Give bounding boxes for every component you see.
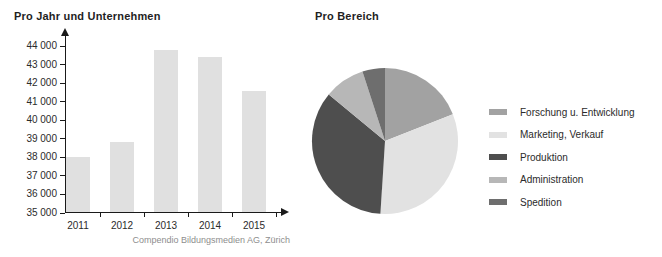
legend-swatch-icon [489, 177, 507, 183]
y-tick-mark [60, 157, 65, 158]
y-axis-line [65, 36, 66, 213]
x-tick-label: 2013 [144, 220, 188, 231]
y-tick-label: 38 000 [12, 151, 57, 162]
legend-label: Administration [520, 174, 583, 185]
legend-swatch-icon [489, 109, 507, 115]
legend-item: Marketing, Verkauf [489, 124, 635, 147]
x-tick-label: 2014 [188, 220, 232, 231]
y-tick-label: 37 000 [12, 170, 57, 181]
x-tick-label: 2011 [56, 220, 100, 231]
bar-2013 [154, 50, 178, 213]
y-tick-mark [60, 101, 65, 102]
y-tick-mark [60, 120, 65, 121]
legend-swatch-icon [489, 154, 507, 160]
legend-item: Forschung u. Entwicklung [489, 101, 635, 124]
y-tick-mark [60, 175, 65, 176]
y-tick-label: 44 000 [12, 40, 57, 51]
pie-chart-title: Pro Bereich [315, 10, 379, 22]
pie-svg [311, 67, 459, 215]
legend-swatch-icon [489, 199, 507, 205]
bar-2014 [198, 57, 222, 213]
x-tick-mark [100, 213, 101, 217]
legend-label: Produktion [520, 152, 568, 163]
y-tick-label: 42 000 [12, 77, 57, 88]
y-tick-label: 39 000 [12, 133, 57, 144]
statistics-infographic: Pro Jahr und Unternehmen 35 00036 00037 … [0, 0, 662, 257]
pie-legend: Forschung u. EntwicklungMarketing, Verka… [489, 101, 635, 214]
y-axis-arrow-icon [61, 28, 69, 36]
x-tick-mark [188, 213, 189, 217]
y-tick-label: 41 000 [12, 96, 57, 107]
y-tick-mark [60, 194, 65, 195]
legend-label: Forschung u. Entwicklung [520, 107, 635, 118]
y-tick-label: 36 000 [12, 188, 57, 199]
y-tick-label: 35 000 [12, 207, 57, 218]
y-tick-label: 40 000 [12, 114, 57, 125]
x-tick-mark [276, 213, 277, 217]
y-tick-mark [60, 46, 65, 47]
x-tick-label: 2015 [232, 220, 276, 231]
legend-label: Spedition [520, 197, 562, 208]
legend-swatch-icon [489, 132, 507, 138]
x-axis-line [65, 212, 283, 213]
source-caption: Compendio Bildungsmedien AG, Zürich [96, 235, 290, 245]
legend-item: Spedition [489, 191, 635, 214]
bar-2012 [110, 142, 134, 213]
bar-chart-plot: 35 00036 00037 00038 00039 00040 00041 0… [0, 0, 300, 257]
x-axis-arrow-icon [281, 208, 289, 216]
bar-2011 [66, 157, 90, 213]
legend-label: Marketing, Verkauf [520, 129, 603, 140]
legend-item: Administration [489, 169, 635, 192]
y-tick-mark [60, 83, 65, 84]
y-tick-label: 43 000 [12, 59, 57, 70]
legend-item: Produktion [489, 146, 635, 169]
x-tick-label: 2012 [100, 220, 144, 231]
x-tick-mark [144, 213, 145, 217]
y-tick-mark [60, 138, 65, 139]
y-tick-mark [60, 64, 65, 65]
x-tick-mark [232, 213, 233, 217]
y-tick-mark [60, 213, 65, 214]
bar-2015 [242, 91, 266, 213]
